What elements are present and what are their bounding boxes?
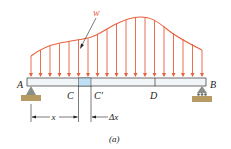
distributed-load-beam-diagram: w A B C C′ D x Δx (a)	[0, 0, 231, 149]
leader-arrowhead	[80, 44, 84, 50]
dim-arrowhead-dx	[92, 116, 97, 119]
point-label-b: B	[210, 79, 216, 90]
load-label-w: w	[93, 7, 100, 18]
roller-support-b	[192, 86, 212, 102]
point-label-a: A	[16, 79, 24, 90]
point-label-c-prime: C′	[94, 90, 104, 101]
dim-arrowhead-right	[74, 116, 79, 119]
load-arrowheads	[29, 73, 204, 77]
point-label-c: C	[67, 90, 74, 101]
beam	[27, 78, 206, 86]
load-leader-line	[82, 18, 96, 45]
dim-arrowhead-left	[32, 116, 37, 119]
point-label-d: D	[149, 90, 158, 101]
beam-element-dx	[79, 78, 92, 86]
load-arrows	[31, 18, 202, 77]
dimension-label-x: x	[51, 112, 56, 122]
pin-support-a	[21, 86, 41, 101]
figure-caption: (a)	[109, 134, 120, 144]
dimension-label-dx: Δx	[108, 112, 118, 122]
